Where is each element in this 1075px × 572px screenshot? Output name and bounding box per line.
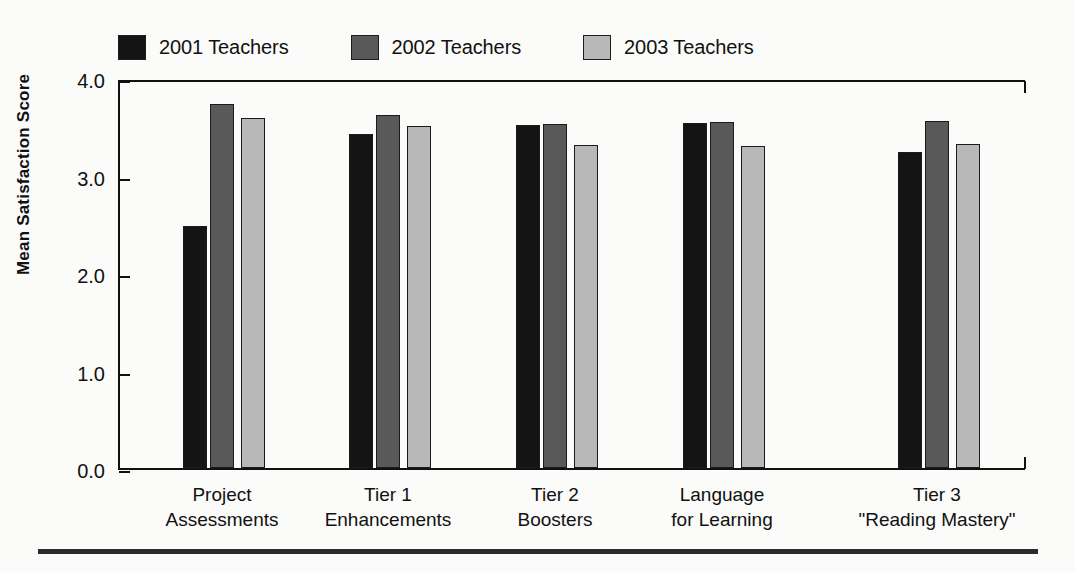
legend-label-2002: 2002 Teachers [392, 36, 522, 59]
bar [956, 144, 980, 468]
bar [241, 118, 265, 468]
legend-swatch-2001 [118, 35, 146, 60]
x-axis-label: Tier 2Boosters [518, 482, 593, 532]
plot-area: 4.03.02.01.00.0 [118, 80, 1025, 470]
bar [407, 126, 431, 468]
bottom-divider [38, 549, 1038, 554]
chart-legend: 2001 Teachers 2002 Teachers 2003 Teacher… [118, 32, 754, 62]
bar-group [898, 82, 980, 468]
bar-group [349, 82, 431, 468]
x-axis-label-line: Project [166, 482, 279, 507]
x-axis-label-line: "Reading Mastery" [858, 507, 1015, 532]
y-axis-title: Mean Satisfaction Score [14, 74, 34, 275]
x-axis-label-line: Assessments [166, 507, 279, 532]
x-axis-label-line: Enhancements [325, 507, 452, 532]
x-axis-label-line: Boosters [518, 507, 593, 532]
bar [710, 122, 734, 468]
legend-item-2001: 2001 Teachers [118, 35, 289, 60]
chart-figure: 2001 Teachers 2002 Teachers 2003 Teacher… [0, 0, 1075, 572]
y-tick: 2.0 [119, 276, 130, 278]
y-tick-label: 4.0 [77, 70, 105, 93]
x-axis-label-line: for Learning [671, 507, 772, 532]
x-axis-label-line: Language [671, 482, 772, 507]
y-tick: 0.0 [119, 471, 130, 473]
x-axis-label: Languagefor Learning [671, 482, 772, 532]
y-tick-label: 3.0 [77, 167, 105, 190]
bar [741, 146, 765, 468]
bar [376, 115, 400, 468]
y-tick-label: 1.0 [77, 362, 105, 385]
legend-item-2002: 2002 Teachers [351, 35, 522, 60]
bar [574, 145, 598, 468]
axis-cap-top [1024, 81, 1026, 93]
legend-item-2003: 2003 Teachers [583, 35, 754, 60]
bar-group [183, 82, 265, 468]
y-tick-label: 2.0 [77, 265, 105, 288]
y-tick: 1.0 [119, 374, 130, 376]
bar [925, 121, 949, 468]
bar [516, 125, 540, 468]
bar-group [683, 82, 765, 468]
y-tick: 4.0 [119, 81, 130, 83]
x-axis-label-line: Tier 2 [518, 482, 593, 507]
legend-label-2003: 2003 Teachers [624, 36, 754, 59]
x-axis-label: Tier 1Enhancements [325, 482, 452, 532]
bar [183, 226, 207, 468]
legend-label-2001: 2001 Teachers [159, 36, 289, 59]
y-tick: 3.0 [119, 179, 130, 181]
legend-swatch-2003 [583, 35, 611, 60]
x-axis-label-line: Tier 1 [325, 482, 452, 507]
x-axis-label: Tier 3"Reading Mastery" [858, 482, 1015, 532]
axis-cap-bottom [1024, 457, 1026, 469]
legend-swatch-2002 [351, 35, 379, 60]
bar [543, 124, 567, 468]
bar [210, 104, 234, 468]
x-axis-label-line: Tier 3 [858, 482, 1015, 507]
x-axis-label: ProjectAssessments [166, 482, 279, 532]
y-tick-label: 0.0 [77, 460, 105, 483]
bar [683, 123, 707, 468]
bar [349, 134, 373, 468]
bar-group [516, 82, 598, 468]
bar [898, 152, 922, 468]
